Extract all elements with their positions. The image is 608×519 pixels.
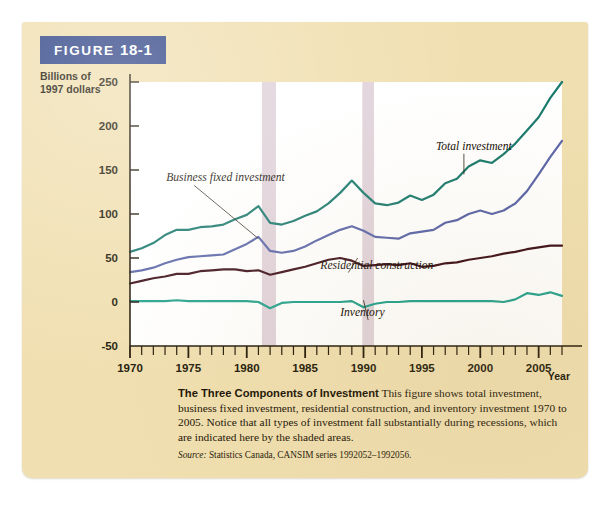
x-tick-label: 1990: [351, 362, 377, 374]
figure-source: Source: Statistics Canada, CANSIM series…: [178, 450, 570, 460]
x-tick-label: 2000: [467, 362, 493, 374]
x-tick-label: 1995: [409, 362, 435, 374]
y-tick-label: 250: [99, 76, 118, 88]
x-tick-label: 1980: [234, 362, 260, 374]
y-tick-label: -50: [101, 340, 118, 352]
figure-page: FIGURE 18-1 Billions of 1997 dollars Yea…: [0, 0, 608, 519]
y-tick-label: 100: [99, 208, 118, 220]
x-tick-label: 1975: [176, 362, 202, 374]
y-tick-label: 0: [112, 296, 118, 308]
annotation-label-total-investment: Total investment: [436, 140, 513, 153]
annotation-label-inventory: Inventory: [339, 306, 385, 319]
x-tick-label: 1985: [292, 362, 318, 374]
source-label: Source:: [178, 450, 207, 460]
y-tick-label: 200: [99, 120, 118, 132]
figure-caption: The Three Components of Investment This …: [178, 386, 570, 444]
source-text: Statistics Canada, CANSIM series 1992052…: [207, 450, 412, 460]
annotation-label-business-fixed-investment: Business fixed investment: [166, 171, 285, 184]
x-tick-label: 2005: [526, 362, 552, 374]
y-tick-label: 50: [105, 252, 118, 264]
y-tick-label: 150: [99, 164, 118, 176]
caption-title: The Three Components of Investment: [178, 387, 379, 399]
annotation-label-residential-construction: Residential construction: [319, 259, 433, 272]
figure-panel: FIGURE 18-1 Billions of 1997 dollars Yea…: [22, 22, 588, 478]
x-tick-label: 1970: [117, 362, 143, 374]
